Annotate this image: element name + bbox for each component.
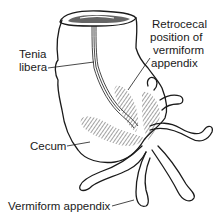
label-tenia-line1: Tenia [19, 48, 47, 60]
label-cecum: Cecum [30, 140, 66, 152]
label-retro-line2: position of [150, 31, 203, 43]
label-retro-line1: Retrocecal [152, 18, 207, 30]
label-vermiform-appendix: Vermiform appendix [8, 200, 111, 212]
label-tenia-line2: libera [19, 61, 48, 73]
label-retro-line3: vermiform [153, 44, 204, 56]
cecum-diagram: Tenia libera Retrocecal position of verm… [0, 0, 224, 224]
retrocecal-hatching [81, 86, 160, 146]
label-retro-line4: appendix [151, 57, 198, 69]
